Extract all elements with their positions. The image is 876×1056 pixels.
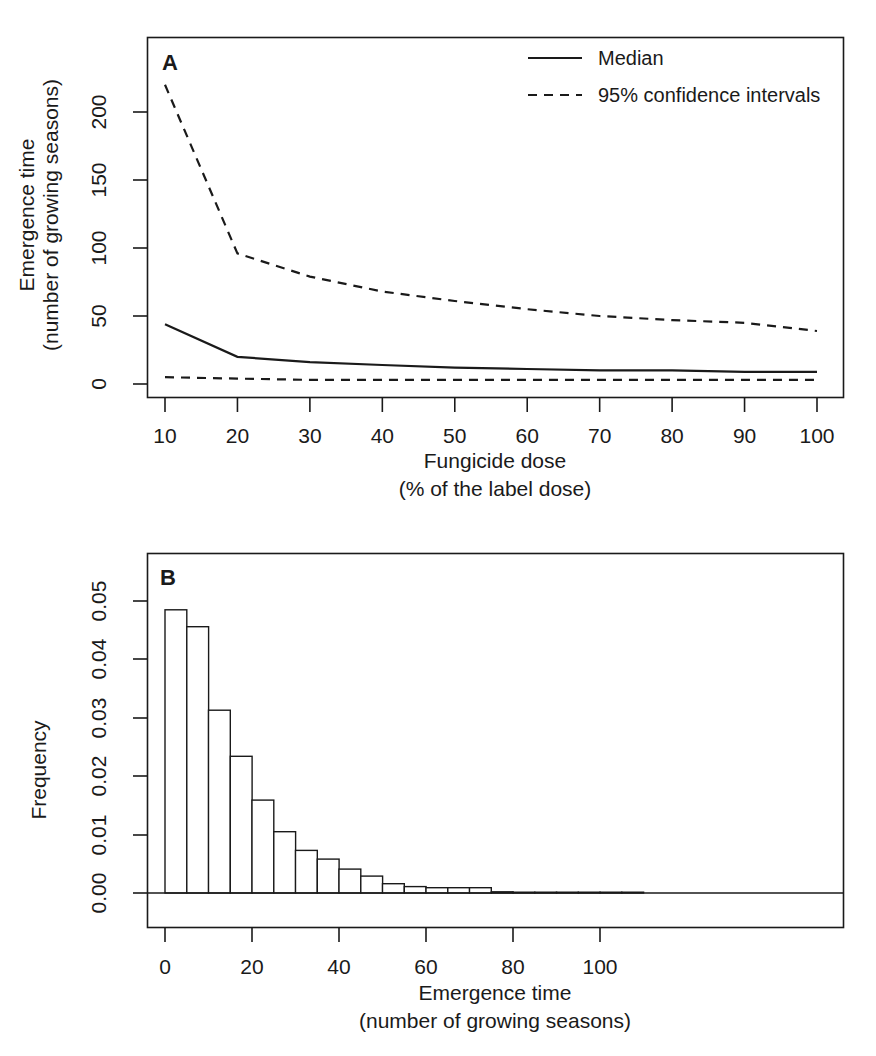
panel-b-xtick-label-40: 40 [327, 955, 350, 978]
histogram-bar [187, 627, 209, 893]
ci-upper-curve [165, 85, 817, 331]
panel-a-ytick-50: 50 [87, 304, 110, 327]
histogram-bar [383, 884, 405, 893]
panel-b-xlabel-line1: Emergence time [419, 981, 572, 1004]
panel-b-ylabel: Frequency [27, 720, 50, 820]
panel-b-x-ticklabels: 020406080100 [159, 955, 617, 978]
panel-a-xtick-label-20: 20 [226, 424, 249, 447]
histogram-bar [361, 876, 383, 893]
histogram-bar [404, 887, 426, 893]
panel-a-xlabel-line2: (% of the label dose) [399, 477, 592, 500]
panel-b-xlabel-line2: (number of growing seasons) [359, 1009, 631, 1032]
panel-a: Emergence time (number of growing season… [0, 0, 876, 500]
panel-a-y-tickmarks [133, 112, 147, 384]
legend-ci-label: 95% confidence intervals [598, 84, 820, 106]
panel-a-x-tickmarks [165, 398, 817, 413]
panel-a-xlabel-line1: Fungicide dose [424, 449, 566, 472]
panel-a-ytick-150: 150 [87, 162, 110, 197]
panel-a-series-group [165, 85, 817, 380]
ci-lower-curve [165, 377, 817, 380]
panel-b-xtick-label-80: 80 [501, 955, 524, 978]
panel-a-letter: A [162, 50, 178, 75]
panel-a-xtick-label-50: 50 [443, 424, 466, 447]
panel-b-ytick-005: 0.05 [87, 581, 110, 622]
panel-a-xtick-label-60: 60 [516, 424, 539, 447]
histogram-bar [252, 800, 274, 893]
legend-median-label: Median [598, 47, 664, 69]
histogram-bar [339, 869, 361, 893]
panel-b-xtick-label-0: 0 [159, 955, 171, 978]
panel-b-ytick-004: 0.04 [87, 638, 110, 679]
panel-b-y-tickmarks [133, 601, 147, 893]
panel-a-xtick-label-80: 80 [660, 424, 683, 447]
panel-a-xtick-label-30: 30 [298, 424, 321, 447]
panel-a-x-ticklabels: 102030405060708090100 [153, 424, 834, 447]
panel-a-xtick-label-70: 70 [588, 424, 611, 447]
histogram-bar [209, 710, 231, 893]
panel-a-xtick-label-10: 10 [153, 424, 176, 447]
panel-b-svg: Frequency 0.00 0.01 0.02 0.03 0.04 0.05 … [0, 520, 876, 1056]
panel-b: Frequency 0.00 0.01 0.02 0.03 0.04 0.05 … [0, 520, 876, 1056]
panel-a-svg: Emergence time (number of growing season… [0, 0, 876, 500]
histogram-bar [317, 859, 339, 893]
figure-container: Emergence time (number of growing season… [0, 0, 876, 1056]
histogram-bar [165, 610, 187, 893]
panel-b-xtick-label-60: 60 [414, 955, 437, 978]
panel-b-xtick-label-100: 100 [582, 955, 617, 978]
histogram-bar [274, 832, 296, 893]
histogram-bar [230, 756, 252, 893]
histogram-bar [296, 850, 318, 893]
panel-a-xtick-label-40: 40 [371, 424, 394, 447]
panel-b-ytick-003: 0.03 [87, 698, 110, 739]
panel-a-ylabel-line2: (number of growing seasons) [39, 79, 62, 351]
panel-a-legend: Median 95% confidence intervals [528, 47, 820, 106]
panel-a-ytick-100: 100 [87, 230, 110, 265]
panel-b-bars [165, 610, 644, 893]
panel-b-xtick-label-20: 20 [240, 955, 263, 978]
panel-a-ytick-0: 0 [87, 378, 110, 390]
panel-a-xtick-label-100: 100 [799, 424, 834, 447]
panel-a-ytick-200: 200 [87, 94, 110, 129]
panel-b-ytick-000: 0.00 [87, 873, 110, 914]
median-curve [165, 324, 817, 372]
panel-b-letter: B [160, 565, 176, 590]
panel-b-x-tickmarks [165, 928, 600, 943]
panel-a-xtick-label-90: 90 [733, 424, 756, 447]
panel-b-ytick-001: 0.01 [87, 815, 110, 856]
panel-a-ylabel-line1: Emergence time [15, 139, 38, 292]
panel-b-ytick-002: 0.02 [87, 756, 110, 797]
